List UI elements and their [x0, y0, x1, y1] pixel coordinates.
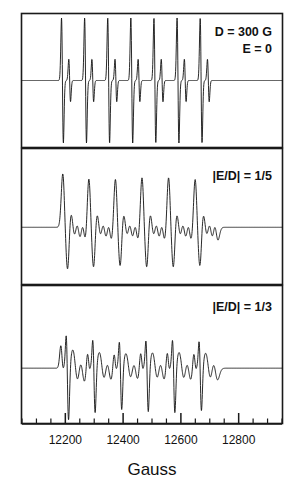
x-axis-tick-label: 12600	[164, 433, 198, 447]
panel-top-annotation-line-2: E = 0	[242, 42, 272, 56]
x-axis-tick-label: 12200	[49, 433, 83, 447]
panel-top-annotation-line-1: D = 300 G	[215, 25, 272, 39]
x-axis-tick-label: 12400	[106, 433, 140, 447]
epr-spectra-figure: D = 300 G E = 0 |E/D| = 1/5 |E/D| = 1/3 …	[0, 0, 298, 488]
x-axis-tick-label: 12800	[222, 433, 256, 447]
panel-middle-annotation: |E/D| = 1/5	[213, 169, 273, 183]
figure-background	[0, 0, 298, 488]
panel-bottom-annotation: |E/D| = 1/3	[213, 300, 273, 314]
x-axis-title: Gauss	[127, 460, 176, 479]
